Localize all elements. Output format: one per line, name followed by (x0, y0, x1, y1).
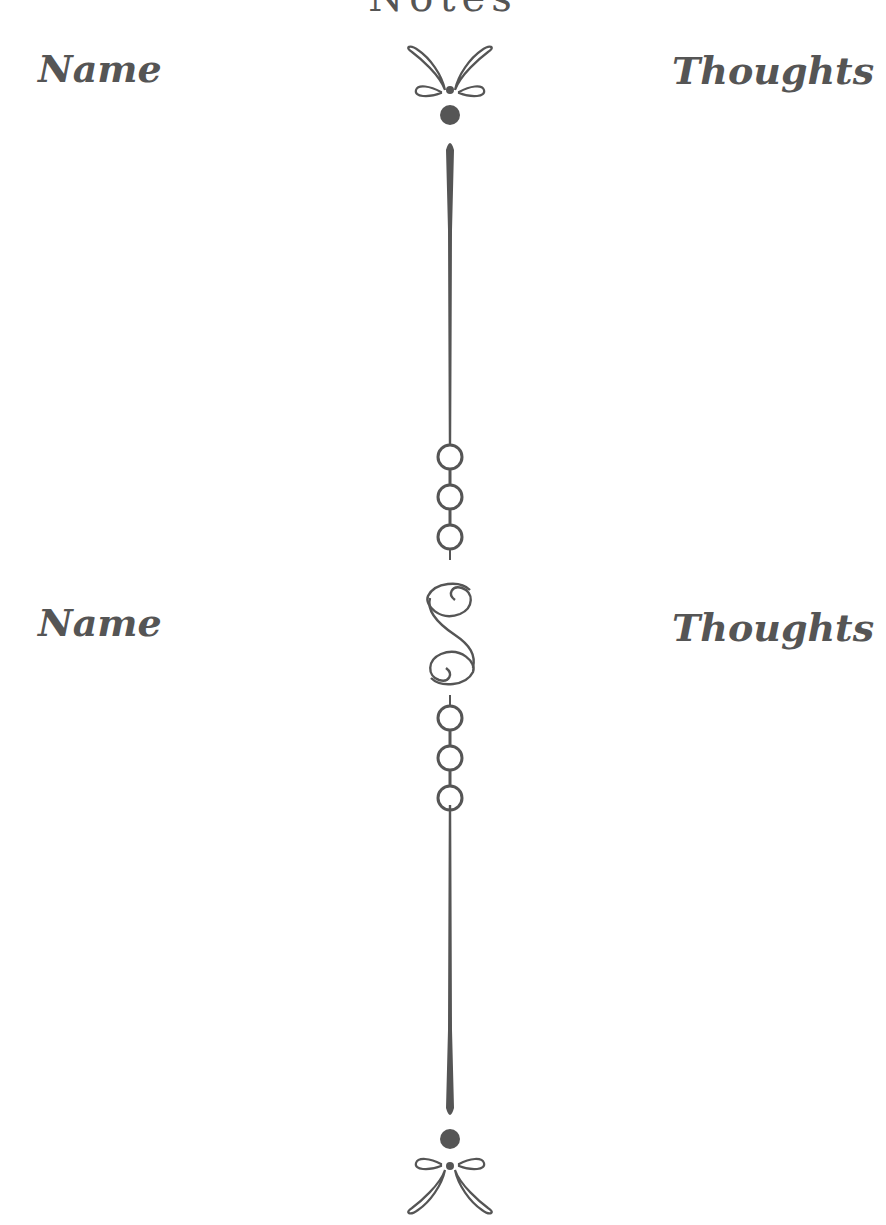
bottom-small-dot-icon (446, 1162, 454, 1170)
lower-beads-icon (438, 695, 462, 810)
top-large-dot-icon (440, 105, 460, 125)
upper-beads-icon (438, 445, 462, 560)
bottom-large-dot-icon (440, 1129, 460, 1149)
s-scroll-icon (427, 584, 473, 685)
top-small-dot-icon (446, 86, 454, 94)
center-divider-ornament (0, 0, 886, 1225)
lower-line-icon (446, 805, 454, 1115)
upper-line-icon (446, 143, 454, 445)
